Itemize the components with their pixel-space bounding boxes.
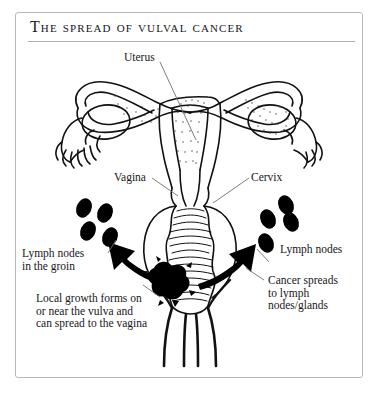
lymph-node xyxy=(280,210,302,234)
label-lymph-nodes-right: Lymph nodes xyxy=(280,243,342,256)
label-cancer-spreads-line3: nodes/glands xyxy=(268,299,360,312)
label-lymph-nodes-groin-line2: in the groin xyxy=(22,260,108,273)
lymph-node xyxy=(255,231,277,255)
label-cancer-spreads-line2: to lymph xyxy=(268,287,360,300)
label-cancer-spreads-line1: Cancer spreads xyxy=(268,274,360,287)
label-local-growth-line3: can spread to the vagina xyxy=(36,317,182,330)
anatomy-illustration xyxy=(0,0,379,395)
label-lymph-nodes-groin-line1: Lymph nodes xyxy=(22,247,108,260)
lymph-node-cluster-left xyxy=(73,196,121,249)
figure-page: The spread of vulval cancer xyxy=(0,0,379,395)
lymph-node xyxy=(73,196,95,220)
label-local-growth-line2: or near the vulva and xyxy=(36,305,182,318)
label-lymph-nodes-groin: Lymph nodes in the groin xyxy=(22,247,108,272)
label-local-growth: Local growth forms on or near the vulva … xyxy=(36,292,182,330)
lymph-node xyxy=(77,219,99,243)
leader-cervix xyxy=(213,178,249,203)
lymph-node xyxy=(94,201,116,225)
label-cancer-spreads: Cancer spreads to lymph nodes/glands xyxy=(268,274,360,312)
label-local-growth-line1: Local growth forms on xyxy=(36,292,182,305)
label-uterus: Uterus xyxy=(124,51,155,64)
label-vagina: Vagina xyxy=(114,171,146,184)
spread-arrow-left xyxy=(108,242,162,284)
lymph-node xyxy=(257,207,279,231)
leader-vagina xyxy=(152,178,178,196)
leader-cancer-spreads xyxy=(246,268,264,280)
label-cervix: Cervix xyxy=(251,171,282,184)
